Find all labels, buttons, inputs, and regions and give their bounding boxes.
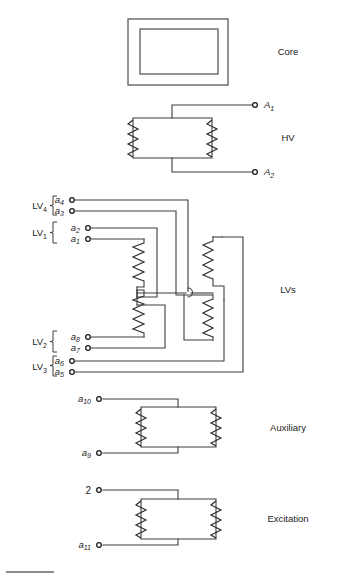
lv-wire-a2 [91,228,157,297]
exc-terminal-a11-label: a11 [78,539,91,551]
lv-terminal-a8-node[interactable] [86,335,91,340]
hv-lead-a2 [172,158,252,172]
lv-terminal-a3-label: a3 [55,205,64,217]
hv-terminal-a1-node[interactable] [253,103,258,108]
lv-terminal-a1-label: a1 [71,233,80,245]
diagram-canvas: Core A1 A2 HV LV4 LV1 [0,0,338,582]
aux-lead-a10 [103,399,178,407]
lv3-coil [203,299,213,337]
aux-terminal-a10-node[interactable] [97,397,102,402]
lv-wire-a7 [91,305,165,348]
hv-terminal-a2-node[interactable] [253,170,258,175]
hv-label: HV [281,132,295,143]
lv-terminal-a5-node[interactable] [70,370,75,375]
auxiliary-label: Auxiliary [270,422,306,433]
aux-terminal-a9-label: a9 [82,447,91,459]
exc-lead-a11 [103,539,178,545]
brace-lv2 [50,331,57,352]
lv-terminal-a4-node[interactable] [70,198,75,203]
lv-terminal-a1-node[interactable] [86,237,91,242]
lv-wire-a4 [75,200,188,291]
exc-terminal-2-label: 2 [85,485,91,496]
excitation-label: Excitation [267,513,308,524]
lv-terminal-a6-node[interactable] [70,359,75,364]
auxiliary-section: a10 a9 Auxiliary [78,393,306,459]
lv2-coil [133,296,144,333]
lv4-coil-lead-bottom [213,279,224,300]
group-label-lv4: LV4 [32,200,47,213]
aux-winding-body [141,407,216,447]
brace-lv1 [50,222,57,243]
lv-wire-a6 [75,300,224,361]
hv-terminal-a2-label: A2 [263,166,274,179]
exc-lead-2 [103,490,178,499]
excitation-section: 2 a11 Excitation [78,485,308,551]
core-label: Core [278,46,299,57]
exc-terminal-a11-node[interactable] [97,543,102,548]
core-inner-rect [140,29,218,74]
lv3-coil-box-left [184,295,213,340]
lv-terminal-a2-node[interactable] [86,226,91,231]
hv-section: A1 A2 HV [128,99,295,179]
lv-terminal-a7-label: a7 [71,342,81,354]
lv-terminal-a3-node[interactable] [70,209,75,214]
hv-terminal-a1-label: A1 [263,99,274,112]
lv1-coil [133,243,144,281]
group-label-lv1: LV1 [32,227,47,240]
aux-lead-a9 [103,447,178,453]
lv4-coil [203,241,213,279]
group-label-lv2: LV2 [32,336,47,349]
exc-winding-body [141,499,216,539]
core-section: Core [128,19,298,85]
lvs-label: LVs [280,284,296,295]
transformer-winding-diagram: Core A1 A2 HV LV4 LV1 [0,0,338,582]
exc-terminal-2-node[interactable] [97,488,102,493]
group-label-lv3: LV3 [32,361,47,374]
aux-terminal-a9-node[interactable] [97,451,102,456]
lv-terminal-a7-node[interactable] [86,346,91,351]
aux-terminal-a10-label: a10 [78,393,91,405]
hv-lead-a1 [172,105,252,118]
hv-winding-body [133,118,212,158]
lvs-section: LV4 LV1 LV2 LV3 a4 a3 a2 a1 [32,194,296,378]
lv1-coil-lead-bottom [137,281,144,287]
lv-terminal-a5-label: a5 [55,366,64,378]
